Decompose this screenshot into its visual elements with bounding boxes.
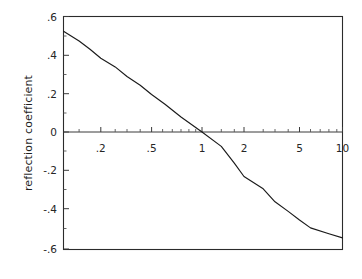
y-tick-labels: .6 .4 .2 0 -.2 -.4 -.6 (43, 11, 57, 256)
x-tick-label: .5 (147, 142, 157, 154)
reflection-coefficient-curve (64, 31, 343, 238)
y-axis-title-group: reflection coefficient (22, 74, 35, 191)
chart-figure: .6 .4 .2 0 -.2 -.4 -.6 .2 .5 1 2 5 10 re… (0, 0, 362, 279)
y-tick-label: -.4 (43, 203, 57, 215)
y-tick-label: .6 (47, 11, 57, 23)
x-axis-ticks (79, 127, 342, 132)
reflection-coefficient-chart: .6 .4 .2 0 -.2 -.4 -.6 .2 .5 1 2 5 10 re… (0, 0, 362, 279)
y-tick-label: .4 (47, 49, 57, 61)
x-tick-label: 10 (336, 142, 349, 154)
y-tick-label: .2 (47, 88, 57, 100)
y-tick-label: -.2 (43, 164, 57, 176)
x-tick-label: 1 (199, 142, 206, 154)
x-tick-label: .2 (96, 142, 106, 154)
x-tick-label: 2 (241, 142, 248, 154)
y-axis-title: reflection coefficient (22, 74, 35, 191)
y-axis-ticks (64, 17, 70, 250)
data-curve-group (64, 31, 343, 238)
y-tick-label: -.6 (43, 243, 57, 255)
y-tick-label: 0 (50, 126, 57, 138)
x-tick-label: 5 (296, 142, 303, 154)
